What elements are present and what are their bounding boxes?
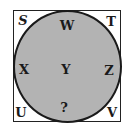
circle-label-y: Y [61, 63, 70, 76]
corner-label-v: V [107, 106, 117, 119]
corner-label-t: T [106, 15, 116, 28]
circle-label-z: Z [104, 64, 114, 77]
circle-label-x: X [19, 63, 29, 76]
corner-label-s: S [18, 14, 27, 27]
circle-label-w: W [60, 19, 75, 32]
circle-label-question: ? [60, 101, 68, 114]
corner-label-u: U [15, 106, 26, 119]
